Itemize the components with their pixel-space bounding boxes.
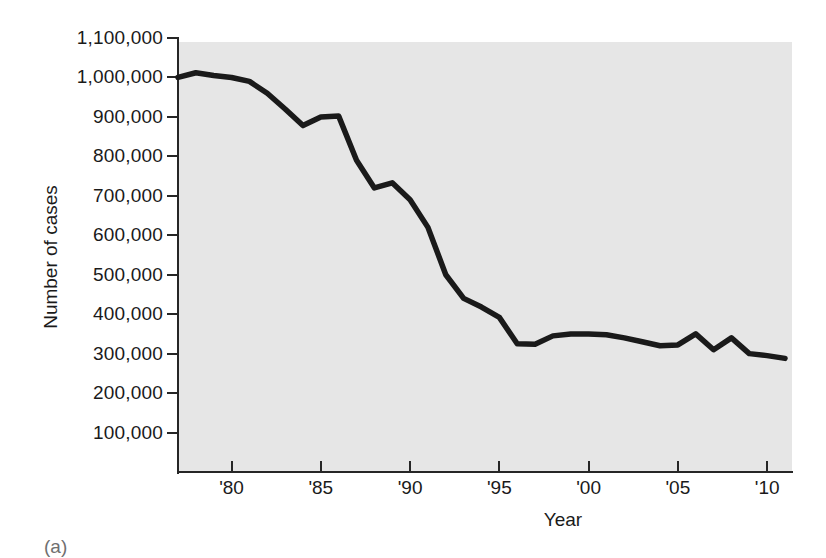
y-tick-900000 xyxy=(167,116,178,118)
y-tick-label-text: 300,000 xyxy=(53,344,163,363)
y-tick-100000 xyxy=(167,432,178,434)
y-tick-label-text: 200,000 xyxy=(53,383,163,402)
y-tick-label-text: 600,000 xyxy=(53,225,163,244)
x-tick-1990 xyxy=(409,461,411,472)
y-tick-800000 xyxy=(167,155,178,157)
y-tick-600000 xyxy=(167,234,178,236)
y-tick-label-text: 900,000 xyxy=(53,107,163,126)
y-tick-label-text: 100,000 xyxy=(53,423,163,442)
x-tick-label: '10 xyxy=(737,478,797,498)
y-tick-400000 xyxy=(167,313,178,315)
x-axis-title-text: Year xyxy=(544,509,582,530)
y-tick-label-text: 1,000,000 xyxy=(53,67,163,86)
y-tick-1000000 xyxy=(167,76,178,78)
y-tick-label-text: 700,000 xyxy=(53,186,163,205)
x-tick-1985 xyxy=(320,461,322,472)
x-tick-label: '95 xyxy=(469,478,529,498)
figure-caption: (a) xyxy=(44,536,67,558)
x-tick-label: '00 xyxy=(559,478,619,498)
x-axis-line xyxy=(177,471,793,473)
y-tick-700000 xyxy=(167,195,178,197)
y-tick-label-text: 1,100,000 xyxy=(53,28,163,47)
x-axis-title: Year xyxy=(0,509,826,531)
x-tick-label: '80 xyxy=(202,478,262,498)
x-tick-label: '05 xyxy=(648,478,708,498)
x-tick-2010 xyxy=(766,461,768,472)
y-axis-line xyxy=(177,37,179,474)
x-tick-2000 xyxy=(588,461,590,472)
y-tick-1100000 xyxy=(167,37,178,39)
x-tick-label: '85 xyxy=(291,478,351,498)
x-tick-2005 xyxy=(677,461,679,472)
y-tick-200000 xyxy=(167,392,178,394)
x-tick-1980 xyxy=(231,461,233,472)
y-tick-label-text: 500,000 xyxy=(53,265,163,284)
y-tick-label-text: 400,000 xyxy=(53,304,163,323)
x-tick-1995 xyxy=(498,461,500,472)
x-tick-label: '90 xyxy=(380,478,440,498)
y-tick-500000 xyxy=(167,274,178,276)
plot-area xyxy=(178,42,792,472)
y-tick-label-text: 800,000 xyxy=(53,146,163,165)
y-axis-title-text: Number of cases xyxy=(40,42,66,472)
y-tick-300000 xyxy=(167,353,178,355)
